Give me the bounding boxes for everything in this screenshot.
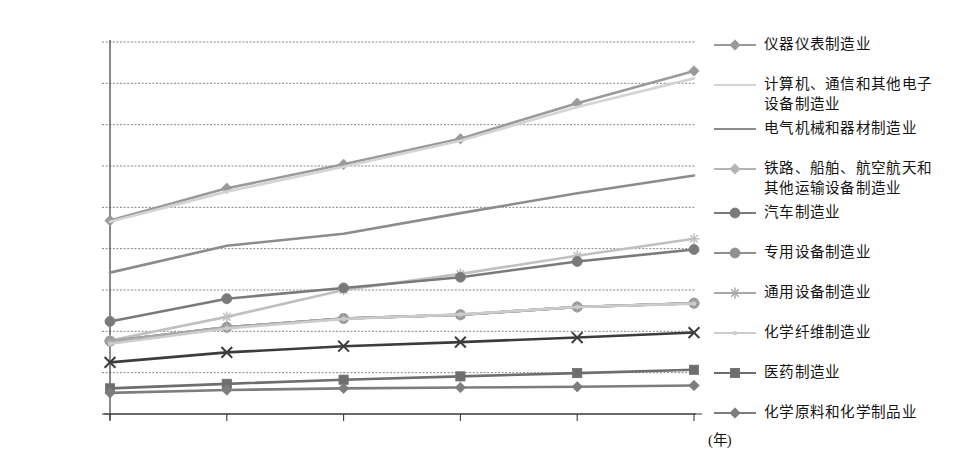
series-line-1 bbox=[110, 78, 694, 221]
legend-marker-icon bbox=[727, 245, 743, 261]
x-axis-unit-label: (年) bbox=[708, 433, 732, 448]
legend-item[interactable]: 化学纤维制造业 bbox=[714, 322, 980, 342]
legend-swatch-none-icon bbox=[714, 120, 756, 138]
legend-item-label: 汽车制造业 bbox=[764, 202, 841, 222]
legend-marker-icon bbox=[727, 121, 743, 137]
legend-swatch-dot-icon bbox=[714, 324, 756, 342]
legend-item[interactable]: 铁路、船舶、航空航天和 其他运输设备制造业 bbox=[714, 158, 980, 198]
legend-marker-icon bbox=[727, 77, 743, 93]
legend-marker-icon bbox=[727, 37, 743, 53]
series-line-9 bbox=[105, 380, 699, 398]
legend-item[interactable]: 专用设备制造业 bbox=[714, 242, 980, 262]
line-chart: (年) 仪器仪表制造业计算机、通信和其他电子 设备制造业电气机械和器材制造业铁路… bbox=[0, 0, 980, 471]
plot-area: (年) bbox=[0, 0, 712, 471]
legend-swatch-none-icon bbox=[714, 76, 756, 94]
legend-item-label: 铁路、船舶、航空航天和 其他运输设备制造业 bbox=[764, 158, 932, 198]
legend-item-label: 计算机、通信和其他电子 设备制造业 bbox=[764, 74, 932, 114]
legend-swatch-square-icon bbox=[714, 364, 756, 382]
legend-item[interactable]: 医药制造业 bbox=[714, 362, 980, 382]
legend-marker-icon bbox=[727, 161, 743, 177]
legend-item[interactable]: 通用设备制造业 bbox=[714, 282, 980, 302]
legend-item[interactable]: 汽车制造业 bbox=[714, 202, 980, 222]
legend-marker-icon bbox=[727, 285, 743, 301]
gridlines bbox=[102, 42, 696, 414]
legend-marker-icon bbox=[727, 365, 743, 381]
series-line-4 bbox=[105, 244, 699, 326]
legend-marker-icon bbox=[727, 405, 743, 421]
legend-item-label: 仪器仪表制造业 bbox=[764, 34, 871, 54]
legend-item[interactable]: 化学原料和化学制品业 bbox=[714, 402, 980, 422]
legend-item-label: 化学纤维制造业 bbox=[764, 322, 871, 342]
legend-swatch-diamond-icon bbox=[714, 404, 756, 422]
plot-svg bbox=[0, 0, 712, 471]
chart-legend: 仪器仪表制造业计算机、通信和其他电子 设备制造业电气机械和器材制造业铁路、船舶、… bbox=[714, 34, 980, 434]
legend-item-label: 专用设备制造业 bbox=[764, 242, 871, 262]
legend-item[interactable]: 仪器仪表制造业 bbox=[714, 34, 980, 54]
legend-marker-icon bbox=[727, 325, 743, 341]
legend-item[interactable]: 计算机、通信和其他电子 设备制造业 bbox=[714, 74, 980, 114]
legend-item[interactable]: 电气机械和器材制造业 bbox=[714, 118, 980, 138]
legend-item-label: 通用设备制造业 bbox=[764, 282, 871, 302]
legend-swatch-circle-icon bbox=[714, 244, 756, 262]
legend-swatch-diamond-icon bbox=[714, 160, 756, 178]
legend-swatch-circle-icon bbox=[714, 204, 756, 222]
legend-marker-icon bbox=[727, 205, 743, 221]
legend-item-label: 化学原料和化学制品业 bbox=[764, 402, 917, 422]
legend-swatch-diamond-icon bbox=[714, 36, 756, 54]
legend-item-label: 电气机械和器材制造业 bbox=[764, 118, 917, 138]
legend-swatch-star-icon bbox=[714, 284, 756, 302]
legend-item-label: 医药制造业 bbox=[764, 362, 841, 382]
series-line-0 bbox=[105, 66, 699, 226]
